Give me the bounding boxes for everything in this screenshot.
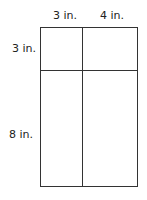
horizontal-divider <box>40 70 138 71</box>
rect-left-edge <box>40 27 41 187</box>
rect-top-edge <box>40 27 138 28</box>
vertical-divider <box>82 27 83 187</box>
rect-bottom-edge <box>40 186 138 187</box>
side-label-1: 3 in. <box>12 43 36 55</box>
top-label-2: 4 in. <box>100 10 124 22</box>
rect-right-edge <box>137 27 138 187</box>
top-label-1: 3 in. <box>53 10 77 22</box>
side-label-2: 8 in. <box>9 129 33 141</box>
